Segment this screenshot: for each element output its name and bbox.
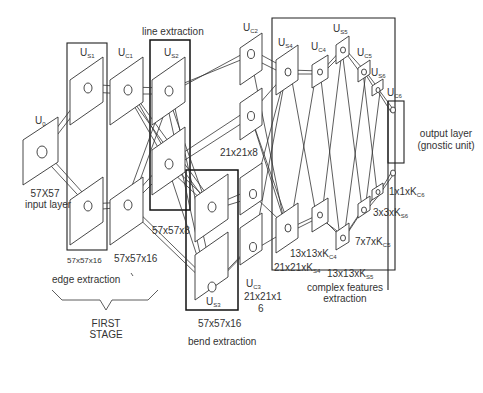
- tick-mark: [131, 273, 133, 276]
- uc1-plane-bottom: [110, 177, 143, 245]
- uc5-size: 7x7xKC5: [355, 236, 390, 251]
- complex-features-label-1: complex features: [290, 282, 400, 293]
- us5-size: 13x13xKS5: [327, 268, 373, 283]
- first-stage-label-1: FIRST: [80, 318, 132, 329]
- gnostic-unit-label: (gnostic unit): [409, 140, 483, 151]
- us3-size: 57x57x16: [198, 318, 241, 329]
- us6-size: 3x3xKS6: [373, 207, 408, 222]
- uc4-label: UC4: [311, 41, 326, 56]
- uc2-size: 21x21x8: [220, 147, 258, 158]
- uc3-plane-2: [240, 213, 262, 265]
- line-extraction-label: line extraction: [142, 26, 204, 37]
- input-layer-label: input layer: [18, 199, 78, 210]
- u0-size: 57X57: [20, 188, 70, 199]
- us5-label: US5: [333, 23, 348, 38]
- bend-extraction-label: bend extraction: [188, 336, 256, 347]
- us6-label: US6: [371, 67, 386, 82]
- us1-label: US1: [80, 47, 95, 62]
- uc1-label: UC1: [118, 47, 133, 62]
- uc6-label: UC6: [387, 87, 402, 102]
- uc3-size-line2: 6: [258, 303, 264, 314]
- u0-label: U0: [35, 115, 46, 130]
- output-layer-label: output layer: [409, 128, 483, 139]
- uc6-size: 1x1xKC6: [389, 186, 424, 201]
- us1-size: 57x57x16: [67, 255, 102, 266]
- uc1-size: 57x57x16: [114, 253, 157, 264]
- uc2-plane-1: [240, 33, 262, 85]
- edge-extraction-label: edge extraction: [52, 274, 120, 285]
- us2-label: US2: [164, 47, 179, 62]
- uc2-label: UC2: [243, 22, 258, 37]
- uc3-plane-1: [240, 163, 262, 215]
- us2-size: 57x57x8: [152, 225, 190, 236]
- first-stage-label-2: STAGE: [80, 329, 132, 340]
- us3-label: US3: [206, 296, 221, 311]
- first-stage-brace: [52, 290, 158, 310]
- uc5-label: UC5: [357, 47, 372, 62]
- us4-size: 21x21xKS4: [274, 262, 320, 277]
- complex-features-label-2: extraction: [290, 293, 400, 304]
- uc4-size: 13x13xKC4: [290, 248, 337, 263]
- uc3-size-line1: 21x21x1: [244, 291, 282, 302]
- us4-label: US4: [278, 37, 293, 52]
